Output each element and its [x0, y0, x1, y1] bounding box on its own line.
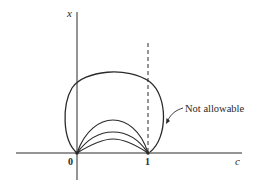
y-axis-label: x — [66, 7, 72, 19]
inner-arc-1 — [77, 120, 148, 153]
inner-arc-2 — [77, 132, 148, 153]
origin-label: 0 — [68, 156, 73, 167]
outer-loop-curve — [65, 72, 163, 153]
origin-point — [75, 151, 79, 155]
unit-label: 1 — [145, 156, 150, 167]
unit-point — [146, 151, 150, 155]
diagram: x c 0 1 Not allowable — [0, 0, 271, 187]
not-allowable-label: Not allowable — [185, 103, 245, 114]
arrow-head-icon — [166, 118, 170, 124]
annotation-arrow — [168, 108, 183, 120]
x-axis-label: c — [235, 155, 240, 167]
